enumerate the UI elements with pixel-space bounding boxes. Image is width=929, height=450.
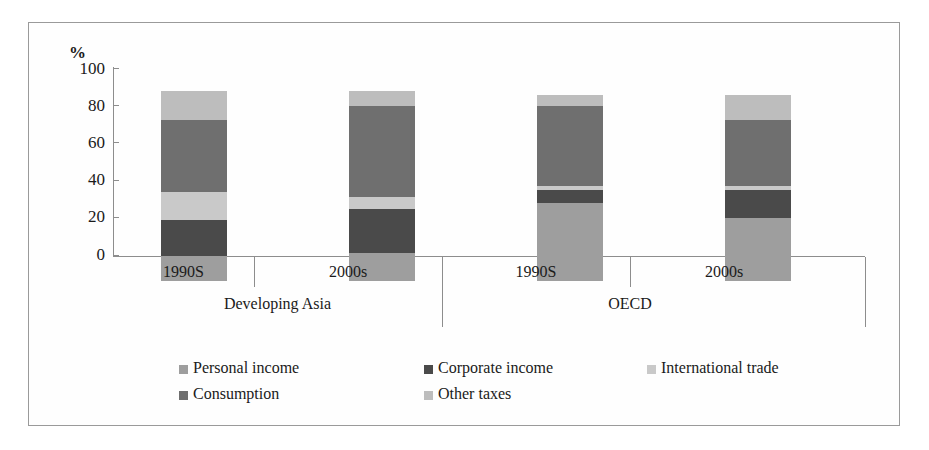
- legend-label-personal-income: Personal income: [193, 359, 299, 377]
- bar-segment-corporate-income: [161, 220, 227, 256]
- category-label-oecd-1990s: 1990S: [442, 263, 630, 281]
- legend-swatch-consumption: [179, 391, 188, 400]
- legend-row-1: Personal income Corporate income Interna…: [179, 359, 879, 385]
- bar-segment-consumption: [725, 120, 791, 187]
- bar-segment-other-taxes: [161, 91, 227, 120]
- bar-segment-other-taxes: [537, 95, 603, 106]
- bar-segment-corporate-income: [537, 190, 603, 203]
- bar-segment-other-taxes: [349, 91, 415, 106]
- legend-item-personal-income[interactable]: Personal income: [179, 359, 299, 377]
- y-tick-20: 20: [59, 207, 105, 227]
- bar-oecd-1990s[interactable]: [537, 95, 603, 281]
- bar-segment-international-trade: [349, 197, 415, 208]
- bar-segment-consumption: [537, 106, 603, 186]
- category-axis: 1990S 2000s 1990S 2000s: [113, 257, 865, 291]
- bar-segment-consumption: [161, 120, 227, 192]
- group-label-oecd: OECD: [442, 295, 818, 313]
- y-tick-40: 40: [59, 170, 105, 190]
- legend-swatch-corporate-income: [424, 365, 433, 374]
- legend-item-consumption[interactable]: Consumption: [179, 385, 279, 403]
- legend-row-2: Consumption Other taxes: [179, 385, 879, 411]
- legend-swatch-other-taxes: [424, 391, 433, 400]
- bar-segment-international-trade: [161, 192, 227, 221]
- bar-developing-asia-1990s[interactable]: [161, 91, 227, 281]
- group-axis: Developing Asia OECD: [113, 291, 865, 327]
- bar-segment-other-taxes: [725, 95, 791, 120]
- y-tick-0: 0: [59, 245, 105, 265]
- y-tick-60: 60: [59, 133, 105, 153]
- legend-label-other-taxes: Other taxes: [438, 385, 511, 403]
- legend-swatch-international-trade: [647, 365, 656, 374]
- y-tick-100: 100: [59, 59, 105, 79]
- category-label-developing-asia-1990s: 1990S: [113, 263, 254, 281]
- legend-swatch-personal-income: [179, 365, 188, 374]
- group-separator-line: [442, 257, 443, 327]
- legend-label-consumption: Consumption: [193, 385, 279, 403]
- legend: Personal income Corporate income Interna…: [179, 359, 879, 411]
- bar-oecd-2000s[interactable]: [725, 95, 791, 281]
- legend-label-corporate-income: Corporate income: [438, 359, 553, 377]
- plot-area: [113, 69, 865, 281]
- category-label-developing-asia-2000s: 2000s: [254, 263, 442, 281]
- group-label-developing-asia: Developing Asia: [113, 295, 442, 313]
- bar-segment-corporate-income: [349, 209, 415, 253]
- figure-frame: % 100 80 60 40 20 0 1990S 2000s 1990S 20…: [28, 22, 900, 426]
- y-tick-80: 80: [59, 96, 105, 116]
- category-label-oecd-2000s: 2000s: [630, 263, 818, 281]
- bar-segment-consumption: [349, 106, 415, 197]
- legend-item-other-taxes[interactable]: Other taxes: [424, 385, 511, 403]
- bar-developing-asia-2000s[interactable]: [349, 91, 415, 281]
- legend-item-corporate-income[interactable]: Corporate income: [424, 359, 553, 377]
- axis-right-edge: [865, 257, 866, 327]
- legend-label-international-trade: International trade: [661, 359, 779, 377]
- bar-segment-corporate-income: [725, 190, 791, 219]
- y-axis-tick-labels: 100 80 60 40 20 0: [53, 69, 105, 255]
- legend-item-international-trade[interactable]: International trade: [647, 359, 779, 377]
